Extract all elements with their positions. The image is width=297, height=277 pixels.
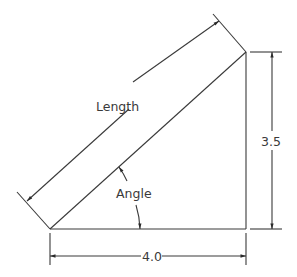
triangle-diagram: Length Angle 3.5 4.0: [0, 0, 297, 277]
length-label: Length: [96, 99, 139, 114]
hypotenuse-edge: [50, 52, 246, 229]
triangle-shape: [50, 52, 246, 229]
angle-arc-upper: [119, 167, 127, 181]
angle-dimension: Angle: [116, 167, 152, 229]
length-extension-line-top: [213, 14, 246, 52]
length-extension-line-bottom: [17, 192, 50, 229]
length-dimension-line-lower: [27, 109, 129, 201]
base-dimension: 4.0: [50, 233, 246, 265]
angle-label: Angle: [116, 186, 152, 201]
height-dimension: 3.5: [250, 52, 282, 229]
height-label: 3.5: [261, 134, 281, 149]
length-dimension-line-upper: [133, 21, 219, 82]
base-label: 4.0: [142, 249, 162, 264]
angle-arc-lower: [136, 205, 140, 229]
